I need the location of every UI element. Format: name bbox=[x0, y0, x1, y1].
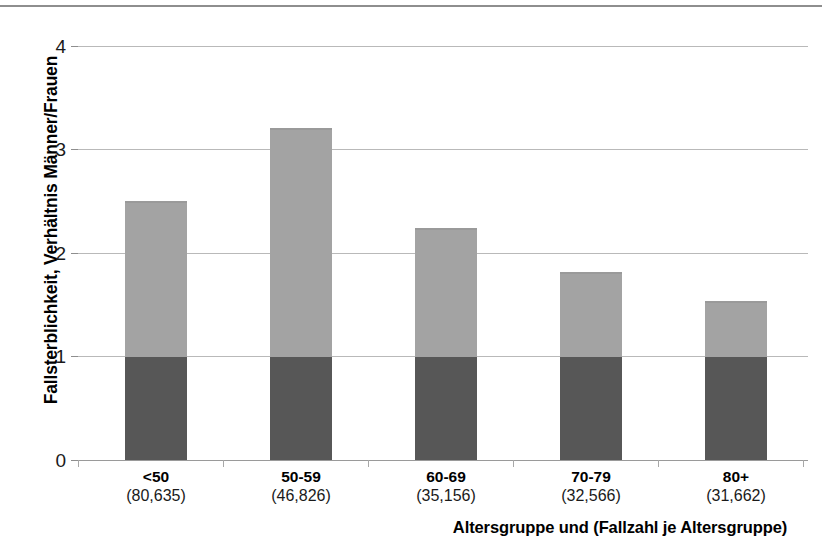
y-tick-label-3: 3 bbox=[55, 140, 66, 159]
x-category-count: (46,826) bbox=[226, 487, 376, 506]
x-category-count: (32,566) bbox=[516, 487, 666, 506]
x-category-name: 50-59 bbox=[226, 468, 376, 486]
bar-segment-lower bbox=[705, 357, 767, 461]
x-category-name: 60-69 bbox=[371, 468, 521, 486]
gridline-4 bbox=[78, 46, 808, 47]
plot-area: 4 3 2 1 0 bbox=[78, 46, 808, 460]
y-tick-mark-3 bbox=[71, 149, 78, 150]
bar-segment-upper bbox=[125, 201, 187, 356]
x-category-count: (80,635) bbox=[81, 487, 231, 506]
y-tick-label-1: 1 bbox=[55, 347, 66, 366]
x-category-name: <50 bbox=[81, 468, 231, 486]
x-category-count: (31,662) bbox=[661, 487, 811, 506]
x-tick-mark-5 bbox=[803, 460, 804, 467]
bar-segment-upper bbox=[705, 301, 767, 357]
y-tick-mark-4 bbox=[71, 46, 78, 47]
x-tick-mark-4 bbox=[658, 460, 659, 467]
y-tick-mark-1 bbox=[71, 356, 78, 357]
y-tick-label-2: 2 bbox=[55, 244, 66, 263]
bar-segment-upper bbox=[560, 272, 622, 357]
x-tick-mark-2 bbox=[368, 460, 369, 467]
bar-segment-lower bbox=[560, 357, 622, 461]
y-axis-title: Fallsterblichkeit, Verhältnis Männer/Fra… bbox=[34, 0, 68, 460]
bar-lt50[interactable] bbox=[125, 201, 187, 460]
bar-50-59[interactable] bbox=[270, 128, 332, 460]
x-tick-mark-1 bbox=[223, 460, 224, 467]
bar-segment-lower bbox=[270, 357, 332, 461]
x-axis-line bbox=[78, 460, 808, 461]
y-tick-mark-2 bbox=[71, 253, 78, 254]
x-category-count: (35,156) bbox=[371, 487, 521, 506]
bar-60-69[interactable] bbox=[415, 228, 477, 460]
bar-segment-upper bbox=[270, 128, 332, 357]
gridline-3 bbox=[78, 149, 808, 150]
x-category-name: 80+ bbox=[661, 468, 811, 486]
x-tick-mark-0 bbox=[78, 460, 79, 467]
x-axis-title: Altersgruppe und (Fallzahl je Altersgrup… bbox=[430, 518, 810, 537]
x-category-lt50: <50 (80,635) bbox=[81, 468, 231, 506]
y-tick-mark-0 bbox=[71, 460, 78, 461]
x-category-60-69: 60-69 (35,156) bbox=[371, 468, 521, 506]
chart-figure: Fallsterblichkeit, Verhältnis Männer/Fra… bbox=[0, 0, 822, 551]
x-category-name: 70-79 bbox=[516, 468, 666, 486]
y-tick-label-4: 4 bbox=[55, 37, 66, 56]
x-category-70-79: 70-79 (32,566) bbox=[516, 468, 666, 506]
y-tick-label-0: 0 bbox=[55, 451, 66, 470]
header-divider bbox=[0, 5, 822, 7]
x-category-50-59: 50-59 (46,826) bbox=[226, 468, 376, 506]
x-tick-mark-3 bbox=[513, 460, 514, 467]
bar-segment-upper bbox=[415, 228, 477, 356]
bar-segment-lower bbox=[415, 357, 477, 461]
x-category-80plus: 80+ (31,662) bbox=[661, 468, 811, 506]
bar-70-79[interactable] bbox=[560, 272, 622, 460]
bar-80plus[interactable] bbox=[705, 301, 767, 460]
bar-segment-lower bbox=[125, 357, 187, 461]
